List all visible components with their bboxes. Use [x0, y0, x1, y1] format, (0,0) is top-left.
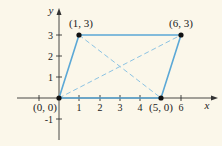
y-axis-label: y — [48, 4, 54, 16]
x-tick-3: 3 — [118, 102, 123, 113]
label-0-0: (0, 0) — [33, 101, 57, 114]
y-axis-arrow-icon — [57, 8, 62, 15]
y-tick-1: 1 — [48, 72, 53, 83]
parallelogram-diagram: 1 2 3 4 6 3 2 1 -1 y x (0, 0) (1, 3) (6,… — [0, 0, 222, 146]
vertex-0-0 — [56, 95, 61, 100]
y-tick-3: 3 — [48, 30, 53, 41]
vertex-5-0 — [158, 95, 163, 100]
y-tick-2: 2 — [48, 51, 53, 62]
x-tick-2: 2 — [98, 102, 103, 113]
label-5-0: (5, 0) — [149, 101, 173, 114]
x-axis-arrow-icon — [211, 96, 218, 101]
vertex-6-3 — [178, 32, 183, 37]
x-axis-label: x — [204, 99, 210, 111]
diagonal-1-3-to-5-0 — [79, 35, 161, 98]
y-tick-neg1: -1 — [45, 114, 53, 125]
vertex-1-3 — [76, 32, 81, 37]
x-tick-1: 1 — [77, 102, 82, 113]
x-tick-6: 6 — [179, 102, 184, 113]
x-tick-4: 4 — [138, 102, 143, 113]
label-6-3: (6, 3) — [169, 17, 193, 30]
label-1-3: (1, 3) — [69, 17, 93, 30]
